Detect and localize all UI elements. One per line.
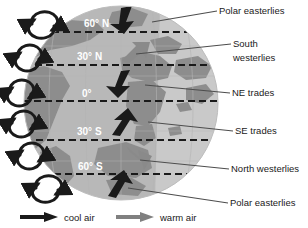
lat-label-60n: 60° N	[84, 18, 109, 29]
legend-label-warm-air: warm air	[159, 212, 196, 223]
legend-label-cool-air: cool air	[64, 212, 95, 223]
label-ne-trades: NE trades	[232, 87, 274, 98]
label-polar-easterlies-south: Polar easterlies	[230, 197, 296, 208]
circulation-cell-5-lower	[17, 151, 41, 169]
global-circulation-diagram: 60° N 30° N 0° 30° S 60° S	[0, 0, 308, 228]
lat-label-0: 0°	[82, 88, 92, 99]
warm-air-arrow-icon	[116, 212, 154, 222]
label-north-westerlies: North westerlies	[231, 163, 299, 174]
lat-label-60s: 60° S	[78, 161, 103, 172]
cool-air-arrow-icon	[20, 212, 58, 222]
label-polar-easterlies-north: Polar easterlies	[219, 5, 285, 16]
label-south-westerlies-line1: South	[233, 38, 258, 49]
lat-label-30s: 30° S	[77, 126, 102, 137]
lat-label-30n: 30° N	[77, 51, 102, 62]
legend: cool air warm air	[20, 212, 196, 223]
label-se-trades: SE trades	[235, 125, 277, 136]
legend-item-warm-air: warm air	[116, 212, 196, 223]
circulation-cell-1-lower	[28, 20, 54, 38]
wind-belt-labels: Polar easterlies South westerlies NE tra…	[219, 5, 299, 208]
legend-item-cool-air: cool air	[20, 212, 95, 223]
label-south-westerlies-line2: westerlies	[232, 52, 275, 63]
circulation-cell-6-lower	[32, 184, 58, 202]
